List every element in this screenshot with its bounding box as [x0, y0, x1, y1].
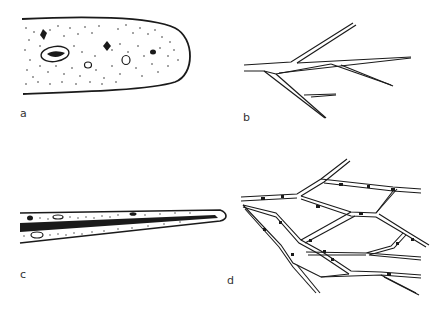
panel-c: c — [0, 155, 221, 311]
panel-a: a — [0, 0, 221, 155]
panel-d-label: d — [227, 275, 234, 286]
panel-d: d — [221, 155, 442, 311]
panel-b-drawing — [221, 0, 442, 155]
panel-b: b — [221, 0, 442, 155]
panel-d-drawing — [221, 155, 442, 311]
panel-b-label: b — [243, 112, 250, 123]
panel-c-label: c — [20, 269, 26, 280]
panel-a-drawing — [0, 0, 221, 155]
panel-c-drawing — [0, 155, 221, 311]
panel-a-label: a — [20, 108, 27, 119]
